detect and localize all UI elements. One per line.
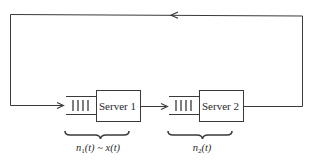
feedback-loop-line — [11, 15, 303, 107]
diagram-canvas — [0, 0, 312, 163]
queue1-length-label: n1(t) ~ x(t) — [62, 143, 134, 155]
queue2-brace-icon — [168, 131, 232, 139]
queue1-brace-icon — [65, 131, 129, 139]
queue2-length-label: n2(t) — [176, 143, 228, 155]
queue-1 — [66, 97, 96, 115]
queue-2 — [169, 97, 199, 115]
server-2-label: Server 2 — [202, 101, 239, 112]
server-1-label: Server 1 — [99, 101, 136, 112]
queueing-network-diagram: Server 1 Server 2 n1(t) ~ x(t) n2(t) — [0, 0, 312, 163]
